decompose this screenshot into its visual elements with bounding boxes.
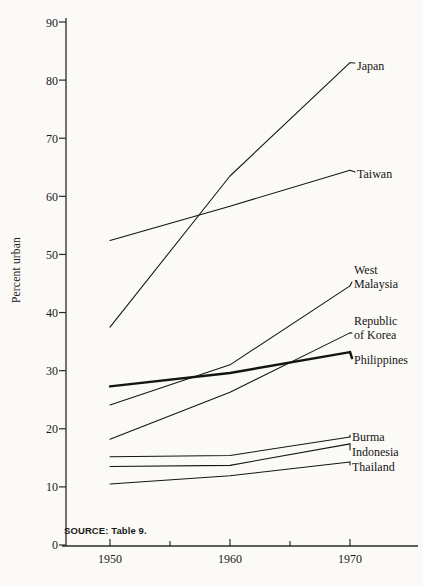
x-tick-label-1970: 1970 (325, 552, 375, 567)
urbanization-line-chart: Percent urban 0 10 20 30 40 50 60 70 80 … (0, 0, 423, 586)
x-tick-marks (110, 539, 350, 546)
series-label-taiwan: Taiwan (357, 168, 392, 182)
source-note: SOURCE: Table 9. (64, 525, 147, 536)
series-label-thailand: Thailand (352, 461, 395, 475)
x-tick-label-1960: 1960 (205, 552, 255, 567)
y-tick-label-40: 40 (28, 306, 58, 321)
y-tick-label-20: 20 (28, 422, 58, 437)
plot-area (0, 0, 423, 586)
leader-taiwan (350, 170, 355, 172)
y-tick-label-0: 0 (28, 538, 58, 553)
y-tick-label-10: 10 (28, 480, 58, 495)
series-line-republic-of-korea (110, 333, 350, 439)
leader-west-malaysia (350, 282, 352, 286)
series-label-west: West (354, 264, 378, 278)
y-tick-marks (59, 22, 66, 545)
series-label-japan: Japan (357, 60, 384, 74)
series-label-burma: Burma (352, 431, 385, 445)
y-tick-label-50: 50 (28, 248, 58, 263)
y-tick-label-30: 30 (28, 364, 58, 379)
series-label-indonesia: Indonesia (352, 446, 399, 460)
series-lines (110, 63, 350, 484)
series-line-west-malaysia (110, 286, 350, 405)
y-axis-title: Percent urban (10, 225, 22, 315)
leader-philippines (350, 352, 352, 358)
series-label-malaysia: Malaysia (354, 278, 398, 292)
series-label-of-korea: of Korea (354, 329, 396, 343)
y-tick-label-70: 70 (28, 132, 58, 147)
series-line-burma (110, 437, 350, 457)
y-tick-label-80: 80 (28, 74, 58, 89)
series-label-philippines: Philippines (354, 354, 408, 368)
series-line-japan (110, 63, 350, 327)
series-line-philippines (110, 352, 350, 386)
y-tick-label-90: 90 (28, 16, 58, 31)
y-tick-label-60: 60 (28, 190, 58, 205)
series-line-taiwan (110, 170, 350, 240)
x-tick-label-1950: 1950 (85, 552, 135, 567)
series-label-republic: Republic (354, 315, 397, 329)
